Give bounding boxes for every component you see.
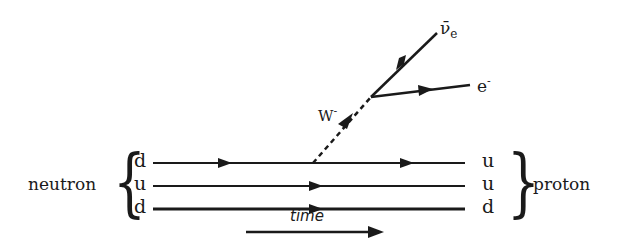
time-arrow — [246, 226, 384, 238]
electron-line — [371, 85, 470, 97]
w-boson-charge: - — [333, 105, 337, 118]
final-quark-3: d — [482, 197, 494, 216]
initial-quark-3: d — [134, 197, 146, 216]
neutron-label: neutron — [28, 176, 96, 193]
proton-label: proton — [533, 176, 590, 193]
arrow-icon — [309, 181, 323, 191]
final-quark-1: u — [482, 151, 494, 170]
w-boson-symbol: W — [318, 107, 333, 125]
electron-label: e- — [477, 76, 491, 95]
quark-line-middle — [153, 181, 465, 191]
initial-quark-1: d — [134, 151, 146, 170]
time-label: time — [290, 209, 324, 224]
final-quark-2: u — [482, 174, 494, 193]
w-boson-label: W- — [318, 106, 337, 124]
arrow-icon — [368, 226, 384, 238]
initial-quark-2: u — [134, 174, 146, 193]
antineutrino-line — [371, 33, 437, 97]
electron-symbol: e — [477, 76, 487, 96]
electron-charge: - — [487, 75, 491, 88]
antineutrino-label: ν̄e — [440, 20, 457, 40]
antineutrino-subscript: e — [450, 27, 457, 41]
quark-line-top — [153, 158, 465, 168]
arrow-icon — [400, 158, 414, 168]
arrow-icon — [218, 158, 232, 168]
antineutrino-symbol: ν̄ — [440, 18, 450, 38]
